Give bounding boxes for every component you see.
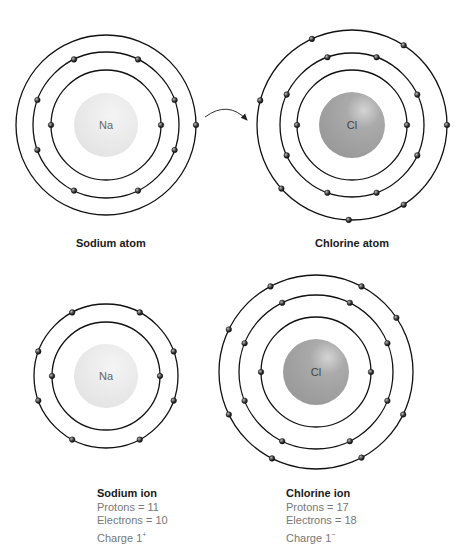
electron-icon [242, 398, 248, 404]
electron-icon [35, 97, 41, 103]
electron-icon [69, 310, 75, 316]
electron-icon [347, 438, 353, 444]
electron-icon [400, 412, 406, 418]
electron-icon [135, 188, 141, 194]
electron-icon [284, 92, 290, 98]
sodium-ion-electrons: Electrons = 10 [97, 514, 168, 528]
electron-icon [359, 284, 365, 290]
electron-icon [172, 147, 178, 153]
sodium-ion: Na [34, 304, 178, 448]
electron-icon [385, 340, 391, 346]
electron-icon [268, 284, 274, 290]
electron-icon [49, 373, 55, 379]
element-symbol: Na [99, 370, 114, 382]
electron-icon [374, 55, 380, 61]
electron-icon [158, 122, 164, 128]
electron-icon [444, 122, 450, 128]
electron-icon [346, 217, 352, 223]
electron-icon [385, 398, 391, 404]
element-symbol: Na [99, 119, 114, 131]
electron-icon [36, 398, 42, 404]
electron-icon [374, 190, 380, 196]
electron-icon [347, 300, 353, 306]
electron-icon [172, 97, 178, 103]
electron-icon [71, 57, 77, 63]
element-symbol: Cl [347, 119, 357, 131]
chlorine-ion-protons: Protons = 17 [286, 501, 357, 515]
electron-icon [226, 412, 232, 418]
sodium-ion-info: Sodium ion Protons = 11 Electrons = 10 C… [97, 487, 168, 545]
chlorine-ion-info: Chlorine ion Protons = 17 Electrons = 18… [286, 487, 357, 545]
electron-icon [35, 147, 41, 153]
electron-icon [404, 122, 410, 128]
electron-icon [309, 36, 315, 42]
electron-icon [171, 349, 177, 355]
electron-icon [242, 340, 248, 346]
electron-icon [135, 57, 141, 63]
electron-icon [157, 373, 163, 379]
electron-icon [193, 122, 199, 128]
electron-icon [257, 98, 263, 104]
electron-icon [137, 310, 143, 316]
sodium-ion-charge: Charge 1+ [97, 528, 168, 545]
sodium-atom: Na [16, 35, 199, 215]
element-symbol: Cl [311, 366, 321, 378]
electron-icon [36, 349, 42, 355]
electron-icon [368, 369, 374, 375]
electron-icon [48, 122, 54, 128]
electron-transfer-arrow [205, 109, 247, 120]
ionic-bond-diagram: NaClNaCl [0, 0, 469, 551]
chlorine-atom-label: Chlorine atom [315, 237, 389, 249]
sodium-ion-title: Sodium ion [97, 487, 168, 501]
chlorine-ion-title: Chlorine ion [286, 487, 357, 501]
electron-icon [325, 190, 331, 196]
electron-icon [258, 369, 264, 375]
sodium-atom-label: Sodium atom [76, 237, 146, 249]
electron-icon [279, 186, 285, 192]
electron-icon [137, 437, 143, 443]
electron-icon [269, 456, 275, 462]
electron-icon [415, 153, 421, 159]
electron-icon [226, 327, 232, 333]
electron-icon [279, 300, 285, 306]
electron-icon [359, 455, 365, 461]
electron-icon [394, 315, 400, 321]
electron-icon [294, 122, 300, 128]
electron-icon [171, 398, 177, 404]
electron-icon [69, 437, 75, 443]
electron-icon [71, 188, 77, 194]
electron-icon [325, 55, 331, 61]
chlorine-ion-charge: Charge 1− [286, 528, 357, 545]
chlorine-ion-electrons: Electrons = 18 [286, 514, 357, 528]
chlorine-atom: Cl [257, 30, 450, 223]
electron-icon [284, 153, 290, 159]
electron-icon [279, 438, 285, 444]
electron-icon [401, 43, 407, 49]
sodium-ion-protons: Protons = 11 [97, 501, 168, 515]
chlorine-ion: Cl [219, 275, 413, 469]
electron-icon [401, 202, 407, 208]
electron-icon [415, 92, 421, 98]
